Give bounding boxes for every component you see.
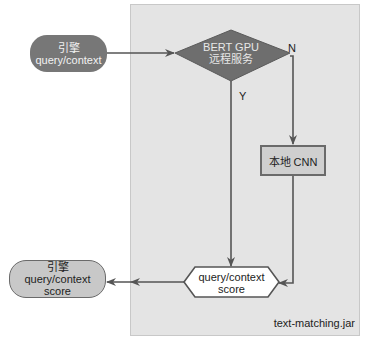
start-node-line2: query/context <box>35 54 101 66</box>
decision-line2: 远程服务 <box>209 53 253 65</box>
end-node-engine-score: 引擎 query/context score <box>9 260 106 298</box>
local-cnn-node: 本地 CNN <box>260 145 326 176</box>
start-node-line1: 引擎 <box>58 42 80 54</box>
end-line2: query/context <box>24 273 90 285</box>
container-label: text-matching.jar <box>274 317 355 329</box>
cnn-label: 本地 CNN <box>269 153 318 169</box>
end-line1: 引擎 <box>47 261 69 273</box>
yes-branch-label: Y <box>239 90 246 102</box>
end-line3: score <box>44 285 71 297</box>
decision-node-bert-gpu: BERT GPU 远程服务 <box>190 36 272 70</box>
result-line2: score <box>218 283 245 295</box>
result-node-score: query/context score <box>190 269 273 296</box>
result-line1: query/context <box>198 271 264 283</box>
decision-line1: BERT GPU <box>203 41 259 53</box>
no-branch-label: N <box>288 42 296 54</box>
start-node-engine-query: 引擎 query/context <box>30 35 107 72</box>
